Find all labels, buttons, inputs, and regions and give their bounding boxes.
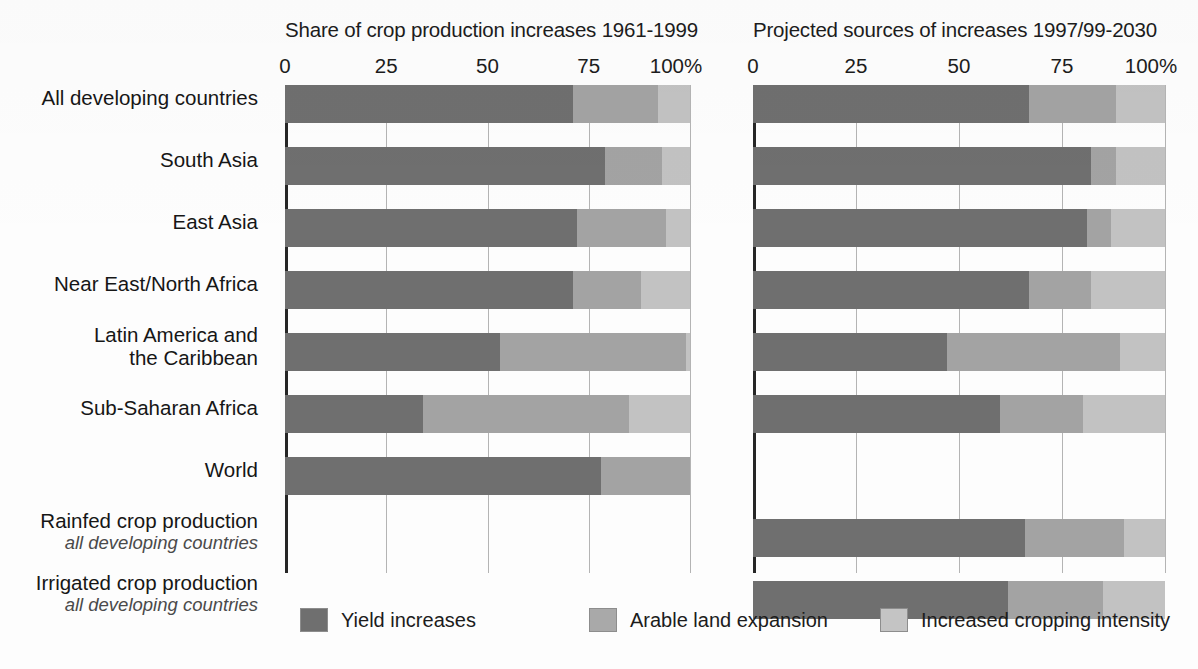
bar-row: [753, 395, 1165, 433]
row-label-main: Irrigated crop production: [0, 572, 258, 595]
bar-segment-yield: [753, 519, 1025, 557]
category-axis-labels: All developing countriesSouth AsiaEast A…: [0, 85, 270, 573]
bar-segment-arable: [1000, 395, 1082, 433]
bar-segment-yield: [285, 457, 601, 495]
x-axis-right: 0255075100%: [753, 54, 1165, 80]
row-label-main-line2: the Caribbean: [0, 347, 258, 370]
axis-tick-right-100: 100%: [1125, 54, 1177, 78]
x-axis-left: 0255075100%: [285, 54, 690, 80]
bar-segment-cropping: [641, 271, 690, 309]
bar-row: [285, 395, 690, 433]
axis-tick-right-25: 25: [845, 54, 868, 78]
axis-tick-right-50: 50: [948, 54, 971, 78]
bar-row: [285, 147, 690, 185]
bar-segment-cropping: [1124, 519, 1165, 557]
bar-segment-arable: [1029, 85, 1116, 123]
plot-area-left: [285, 85, 690, 573]
bar-segment-yield: [753, 333, 947, 371]
panel-title-left: Share of crop production increases 1961-…: [285, 18, 698, 42]
legend-item-yield[interactable]: Yield increases: [300, 608, 476, 632]
gridline-100: [1165, 85, 1166, 573]
bar-segment-arable: [601, 457, 690, 495]
bar-segment-arable: [947, 333, 1120, 371]
axis-tick-left-25: 25: [375, 54, 398, 78]
legend-label-yield: Yield increases: [341, 609, 476, 632]
row-label-main: World: [0, 459, 258, 482]
bar-segment-yield: [285, 395, 423, 433]
bar-segment-yield: [753, 85, 1029, 123]
bar-segment-arable: [605, 147, 662, 185]
bar-row: [285, 333, 690, 371]
row-label-main: Rainfed crop production: [0, 510, 258, 533]
row-label-main: Sub-Saharan Africa: [0, 397, 258, 420]
axis-tick-left-0: 0: [279, 54, 290, 78]
bar-segment-yield: [285, 333, 500, 371]
bar-segment-arable: [1029, 271, 1091, 309]
row-label-1: South Asia: [0, 149, 258, 172]
bar-row: [285, 457, 690, 495]
bar-segment-arable: [1025, 519, 1124, 557]
bar-segment-arable: [573, 271, 642, 309]
bar-segment-cropping: [1116, 85, 1165, 123]
row-label-main: East Asia: [0, 211, 258, 234]
axis-tick-left-100: 100%: [650, 54, 702, 78]
chart-legend: Yield increasesArable land expansionIncr…: [0, 608, 1198, 648]
row-label-main: Near East/North Africa: [0, 273, 258, 296]
bar-segment-cropping: [1120, 333, 1165, 371]
bar-segment-cropping: [1116, 147, 1165, 185]
chart-figure: Share of crop production increases 1961-…: [0, 0, 1198, 669]
legend-swatch-arable: [589, 608, 617, 632]
bar-segment-yield: [753, 395, 1000, 433]
row-label-sub: all developing countries: [0, 533, 258, 554]
bar-segment-yield: [285, 85, 573, 123]
legend-item-arable[interactable]: Arable land expansion: [589, 608, 828, 632]
row-label-main: Latin America and: [0, 324, 258, 347]
row-label-3: Near East/North Africa: [0, 273, 258, 296]
legend-item-cropping[interactable]: Increased cropping intensity: [880, 608, 1170, 632]
bar-segment-yield: [285, 209, 577, 247]
axis-tick-left-50: 50: [476, 54, 499, 78]
legend-label-arable: Arable land expansion: [630, 609, 828, 632]
bar-segment-arable: [573, 85, 658, 123]
row-label-4: Latin America andthe Caribbean: [0, 324, 258, 370]
legend-swatch-cropping: [880, 608, 908, 632]
axis-tick-left-75: 75: [577, 54, 600, 78]
bar-segment-yield: [753, 147, 1091, 185]
bar-row: [753, 271, 1165, 309]
bar-segment-cropping: [1091, 271, 1165, 309]
axis-tick-right-0: 0: [747, 54, 758, 78]
bar-segment-yield: [753, 271, 1029, 309]
bar-segment-cropping: [629, 395, 690, 433]
bar-row: [753, 209, 1165, 247]
row-label-2: East Asia: [0, 211, 258, 234]
row-label-7: Rainfed crop productionall developing co…: [0, 510, 258, 554]
bar-row: [753, 85, 1165, 123]
row-label-6: World: [0, 459, 258, 482]
bar-segment-cropping: [666, 209, 690, 247]
bar-row: [285, 271, 690, 309]
row-label-main: All developing countries: [0, 87, 258, 110]
bar-segment-yield: [285, 147, 605, 185]
row-label-0: All developing countries: [0, 87, 258, 110]
bar-segment-cropping: [658, 85, 690, 123]
bar-segment-arable: [423, 395, 630, 433]
plot-area-right: [753, 85, 1165, 573]
bar-row: [285, 209, 690, 247]
bar-segment-cropping: [1111, 209, 1165, 247]
bar-segment-cropping: [686, 333, 690, 371]
gridline-100: [690, 85, 691, 573]
bar-row: [753, 519, 1165, 557]
bar-row: [753, 333, 1165, 371]
axis-tick-right-75: 75: [1051, 54, 1074, 78]
bar-segment-arable: [1087, 209, 1112, 247]
bar-segment-arable: [1091, 147, 1116, 185]
row-label-main: South Asia: [0, 149, 258, 172]
legend-label-cropping: Increased cropping intensity: [921, 609, 1170, 632]
bar-row: [285, 85, 690, 123]
bar-segment-arable: [577, 209, 666, 247]
bar-segment-cropping: [662, 147, 690, 185]
row-label-5: Sub-Saharan Africa: [0, 397, 258, 420]
legend-swatch-yield: [300, 608, 328, 632]
bar-segment-yield: [285, 271, 573, 309]
bar-segment-arable: [500, 333, 686, 371]
